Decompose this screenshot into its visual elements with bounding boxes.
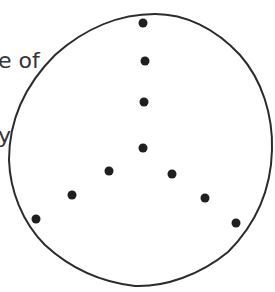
dot-8 — [168, 170, 177, 179]
dot-10 — [232, 219, 241, 228]
dot-5 — [105, 167, 114, 176]
dot-6 — [68, 191, 77, 200]
dot-group — [32, 19, 241, 228]
dot-7 — [32, 215, 41, 224]
dot-1 — [139, 19, 148, 28]
dot-4 — [139, 144, 148, 153]
dot-9 — [201, 194, 210, 203]
dot-2 — [141, 57, 150, 66]
dot-circle-diagram — [0, 0, 275, 292]
dot-3 — [140, 98, 149, 107]
